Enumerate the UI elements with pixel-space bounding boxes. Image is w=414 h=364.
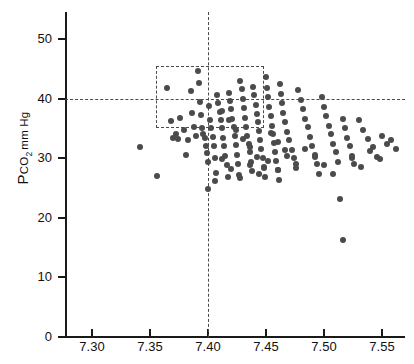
scatter-point: [225, 174, 231, 180]
scatter-point: [213, 170, 219, 176]
scatter-point: [240, 136, 246, 142]
scatter-point: [302, 146, 308, 152]
scatter-point: [228, 106, 234, 112]
scatter-point: [256, 128, 262, 134]
scatter-point: [284, 129, 290, 135]
scatter-point: [205, 159, 211, 165]
scatter-point: [347, 143, 353, 149]
scatter-point: [212, 155, 218, 161]
scatter-point: [203, 143, 209, 149]
scatter-point: [154, 173, 160, 179]
scatter-point: [256, 171, 262, 177]
scatter-point: [215, 100, 221, 106]
scatter-point: [177, 115, 183, 121]
scatter-point: [367, 148, 373, 154]
scatter-point: [342, 125, 348, 131]
scatter-point: [262, 174, 268, 180]
scatter-point: [344, 135, 350, 141]
scatter-point: [226, 117, 232, 123]
scatter-point: [266, 104, 272, 110]
scatter-point: [349, 155, 355, 161]
scatter-point: [298, 97, 304, 103]
scatter-point: [314, 161, 320, 167]
scatter-point: [377, 156, 383, 162]
scatter-point: [307, 134, 313, 140]
scatter-point: [300, 106, 306, 112]
scatter-point: [284, 153, 290, 159]
scatter-point: [282, 147, 288, 153]
scatter-point: [188, 88, 194, 94]
scatter-point: [388, 137, 394, 143]
scatter-point: [351, 161, 357, 167]
scatter-point: [275, 139, 281, 145]
scatter-point: [240, 96, 246, 102]
scatter-point: [243, 124, 249, 130]
scatter-point: [251, 92, 257, 98]
scatter-point: [305, 124, 311, 130]
scatter-point: [191, 124, 197, 130]
scatter-point: [321, 162, 327, 168]
scatter-point: [234, 152, 240, 158]
scatter-point: [168, 118, 174, 124]
scatter-point: [218, 117, 224, 123]
scatter-point: [219, 125, 225, 131]
scatter-point: [257, 137, 263, 143]
scatter-point: [137, 144, 143, 150]
scatter-point: [208, 125, 214, 131]
scatter-point: [328, 131, 334, 137]
scatter-point: [202, 135, 208, 141]
scatter-point: [239, 86, 245, 92]
scatter-point: [261, 164, 267, 170]
scatter-point: [226, 90, 232, 96]
scatter-point: [228, 166, 234, 172]
scatter-point: [316, 171, 322, 177]
scatter-point: [393, 146, 399, 152]
scatter-point: [268, 130, 274, 136]
scatter-point: [235, 161, 241, 167]
scatter-point: [278, 91, 284, 97]
scatter-point: [258, 146, 264, 152]
scatter-point: [337, 196, 343, 202]
scatter-point: [183, 152, 189, 158]
scatter-point: [205, 186, 211, 192]
scatter-point: [175, 136, 181, 142]
scatter-point: [253, 102, 259, 108]
scatter-point: [219, 156, 225, 162]
scatter-point: [340, 237, 346, 243]
scatter-point: [196, 80, 202, 86]
scatter-point: [302, 116, 308, 122]
scatter-point: [309, 143, 315, 149]
scatter-point: [263, 74, 269, 80]
scatter-point: [220, 135, 226, 141]
scatter-point: [356, 117, 362, 123]
scatter-point: [227, 98, 233, 104]
scatter-point: [312, 154, 318, 160]
scatter-point: [330, 171, 336, 177]
scatter-point: [241, 105, 247, 111]
scatter-point: [233, 127, 239, 133]
scatter-point: [237, 175, 243, 181]
scatter-point: [197, 99, 203, 105]
scatter-point: [323, 113, 329, 119]
scatter-point: [185, 137, 191, 143]
scatter-point: [289, 147, 295, 153]
scatter-point: [286, 137, 292, 143]
scatter-point: [379, 133, 385, 139]
scatter-point: [264, 85, 270, 91]
scatter-point: [335, 159, 341, 165]
scatter-point: [272, 149, 278, 155]
scatter-point: [212, 178, 218, 184]
scatter-point: [207, 117, 213, 123]
scatter-point: [326, 123, 332, 129]
scatter-point: [214, 92, 220, 98]
scatter-point: [265, 158, 271, 164]
scatter-point: [242, 115, 248, 121]
scatter-point: [164, 85, 170, 91]
scatter-point: [330, 141, 336, 147]
scatter-point: [365, 136, 371, 142]
scatter-point: [249, 168, 255, 174]
scatter-point: [360, 127, 366, 133]
scatter-point: [333, 149, 339, 155]
scatter-point: [221, 143, 227, 149]
scatter-point: [237, 78, 243, 84]
